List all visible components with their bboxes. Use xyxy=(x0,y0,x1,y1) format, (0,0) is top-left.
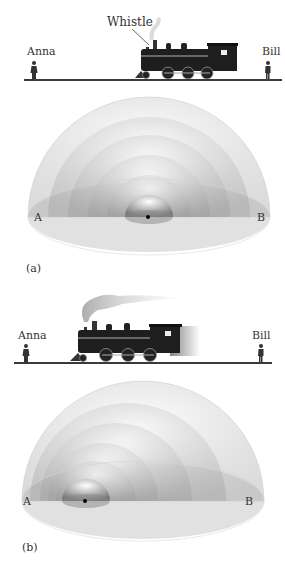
ground-line xyxy=(14,362,272,364)
observer-label-anna: Anna xyxy=(26,45,56,58)
source-point xyxy=(83,499,87,503)
doppler-diagram: Whistle Anna Bill xyxy=(0,0,285,567)
point-b-label: B xyxy=(245,495,253,508)
person-icon-anna xyxy=(31,61,38,79)
observer-label-bill: Bill xyxy=(262,45,281,58)
person-icon-anna xyxy=(23,344,30,362)
point-b-label: B xyxy=(257,211,265,224)
ground-line xyxy=(24,79,282,81)
person-icon-bill xyxy=(265,61,271,79)
steam-icon xyxy=(82,295,182,322)
observer-label-bill: Bill xyxy=(252,329,271,342)
panel-a: Whistle Anna Bill xyxy=(24,15,282,275)
whistle-label: Whistle xyxy=(107,15,153,29)
locomotive-icon xyxy=(70,321,200,362)
source-point xyxy=(146,215,150,219)
observer-label-anna: Anna xyxy=(17,329,47,342)
person-icon-bill xyxy=(258,344,264,362)
point-a-label: A xyxy=(22,495,32,508)
caption-b: (b) xyxy=(22,541,38,554)
point-a-label: A xyxy=(33,211,43,224)
caption-a: (a) xyxy=(26,262,41,275)
panel-b: Anna Bill xyxy=(14,295,272,554)
wavefront-shells xyxy=(28,97,270,255)
wavefront-shells xyxy=(22,381,264,541)
whistle-pointer xyxy=(132,29,149,45)
